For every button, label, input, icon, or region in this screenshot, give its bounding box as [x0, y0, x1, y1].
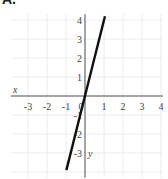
y-tick-label: -3: [74, 148, 82, 159]
x-tick-label: -1: [62, 101, 70, 112]
y-tick-label: 4: [77, 15, 82, 26]
x-tick-label: 4: [159, 101, 164, 112]
x-tick-label: 2: [121, 101, 126, 112]
x-tick-labels: -3-2-101234: [24, 101, 164, 112]
x-axis-label: x: [12, 84, 18, 95]
coordinate-plane: -3-2-101234 4321-1-2-3 x y: [0, 0, 168, 179]
y-axis-label: y: [87, 148, 93, 159]
x-tick-label: 3: [140, 101, 145, 112]
x-tick-label: 1: [102, 101, 107, 112]
y-tick-label: 1: [77, 72, 82, 83]
y-tick-label: 3: [77, 34, 82, 45]
x-tick-label: -3: [24, 101, 32, 112]
y-tick-label: 2: [77, 53, 82, 64]
x-tick-label: -2: [43, 101, 51, 112]
